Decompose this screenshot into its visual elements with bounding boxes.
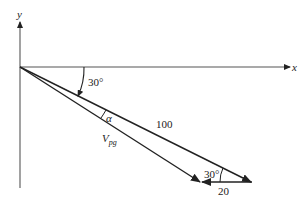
magnitude-label-20: 20 [218,185,230,197]
angle-label-alpha: α [106,112,112,124]
vector-diagram: y x 30° α 100 Vpg 30° 20 [0,0,304,204]
angle-arc-bottom [220,168,223,182]
magnitude-label-100: 100 [156,118,173,130]
y-axis-label: y [16,8,22,20]
vector-100 [20,67,251,182]
vector-vpg [20,67,200,182]
resultant-label: Vpg [102,132,117,147]
x-axis-label: x [291,61,297,73]
angle-arc-top [78,67,84,96]
angle-label-top: 30° [88,76,103,88]
angle-label-bottom: 30° [204,168,219,180]
